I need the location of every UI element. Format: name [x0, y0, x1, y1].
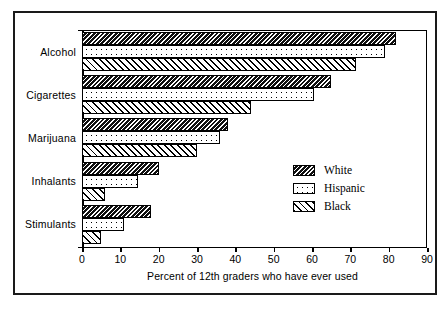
x-tick-label-60: 60 [297, 253, 327, 266]
bar-alcohol-hispanic [82, 45, 385, 58]
x-tick-mark-20 [159, 248, 161, 252]
bar-alcohol-white [82, 32, 396, 45]
x-tick-label-90: 90 [412, 253, 442, 266]
x-tick-mark-30 [197, 248, 199, 252]
legend-label-hispanic: Hispanic [324, 182, 365, 194]
x-tick-mark-60 [312, 248, 314, 252]
bar-inhalants-hispanic [82, 175, 138, 188]
legend-label-black: Black [324, 200, 351, 212]
x-tick-mark-90 [427, 248, 429, 252]
x-tick-label-80: 80 [374, 253, 404, 266]
x-tick-label-70: 70 [335, 253, 365, 266]
x-tick-mark-70 [350, 248, 352, 252]
chart-legend: WhiteHispanicBlack [293, 162, 365, 216]
x-tick-label-0: 0 [67, 253, 97, 266]
x-tick-label-30: 30 [182, 253, 212, 266]
legend-item-white: White [293, 162, 365, 178]
x-axis-title: Percent of 12th graders who have ever us… [78, 270, 427, 282]
bar-inhalants-white [82, 162, 159, 175]
x-tick-mark-10 [120, 248, 122, 252]
bar-cigarettes-hispanic [82, 88, 314, 101]
bar-alcohol-black [82, 58, 356, 71]
x-tick-mark-50 [274, 248, 276, 252]
bar-stimulants-white [82, 205, 151, 218]
x-tick-label-50: 50 [259, 253, 289, 266]
legend-item-hispanic: Hispanic [293, 180, 365, 196]
chart-figure: AlcoholCigarettesMarijuanaInhalantsStimu… [0, 0, 448, 313]
legend-swatch-black [293, 201, 315, 212]
bar-stimulants-hispanic [82, 218, 124, 231]
x-tick-label-40: 40 [220, 253, 250, 266]
legend-label-white: White [324, 164, 352, 176]
x-tick-label-10: 10 [105, 253, 135, 266]
bar-marijuana-white [82, 118, 228, 131]
x-tick-mark-40 [235, 248, 237, 252]
x-tick-mark-80 [389, 248, 391, 252]
legend-item-black: Black [293, 198, 365, 214]
x-tick-mark-0 [82, 248, 84, 252]
bar-series-group [0, 0, 448, 313]
bar-marijuana-black [82, 144, 197, 157]
bar-inhalants-black [82, 188, 105, 201]
legend-swatch-white [293, 165, 315, 176]
bar-cigarettes-black [82, 101, 251, 114]
x-tick-label-20: 20 [144, 253, 174, 266]
legend-swatch-hispanic [293, 183, 315, 194]
bar-cigarettes-white [82, 75, 331, 88]
bar-marijuana-hispanic [82, 131, 220, 144]
bar-stimulants-black [82, 231, 101, 244]
